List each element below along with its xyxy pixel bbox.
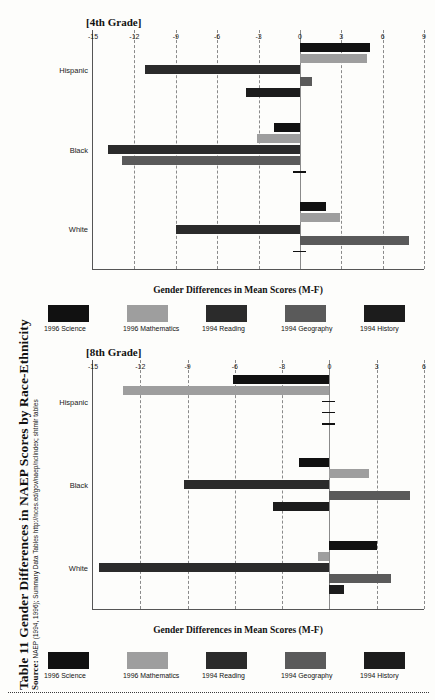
legend-item[interactable]: 1996 Science: [44, 305, 116, 332]
bar: [299, 458, 329, 467]
legend-grade4: 1996 Science1996 Mathematics1994 Reading…: [44, 305, 432, 332]
gridline: [341, 30, 342, 269]
bar: [274, 123, 300, 132]
bar: [246, 88, 300, 97]
legend-label: 1994 Geography: [281, 672, 353, 679]
y-axis-label-hispanic: Hispanic: [59, 397, 88, 406]
legend-swatch-icon: [48, 305, 89, 322]
bar: [300, 202, 326, 211]
x-axis-tick: -3: [279, 363, 285, 370]
bar: [123, 386, 329, 395]
bar: [293, 171, 306, 173]
legend-item[interactable]: 1994 Geography: [281, 652, 353, 679]
legend-label: 1996 Mathematics: [123, 325, 195, 332]
footer-divider: [8, 692, 429, 693]
legend-item[interactable]: 1994 History: [360, 652, 432, 679]
legend-label: 1994 Reading: [202, 325, 274, 332]
x-axis-title-grade8: Gender Differences in Mean Scores (M-F): [44, 625, 432, 635]
legend-label: 1994 Reading: [202, 672, 274, 679]
bar: [273, 502, 330, 511]
legend-item[interactable]: 1996 Mathematics: [123, 305, 195, 332]
bar: [329, 491, 409, 500]
legend-label: 1994 History: [360, 325, 432, 332]
chart-panel-grade8: [8th Grade] -15-12-9-6-3036HispanicBlack…: [44, 344, 432, 684]
bar: [99, 563, 329, 572]
bar: [300, 236, 409, 245]
bar: [329, 574, 390, 583]
chart-title-grade4: [4th Grade]: [86, 14, 432, 30]
gridline: [377, 360, 378, 609]
x-axis-tick: -6: [214, 33, 220, 40]
legend-item[interactable]: 1994 Reading: [202, 652, 274, 679]
gridline: [424, 30, 425, 269]
x-axis-tick: -6: [232, 363, 238, 370]
x-axis-tick: 3: [375, 363, 379, 370]
legend-label: 1994 History: [360, 672, 432, 679]
gridline: [300, 30, 301, 269]
legend-item[interactable]: 1994 Geography: [281, 305, 353, 332]
x-axis-tick: -15: [88, 33, 98, 40]
x-axis-tick: -9: [184, 363, 190, 370]
x-axis-tick: -15: [88, 363, 98, 370]
legend-label: 1994 Geography: [281, 325, 353, 332]
y-axis-label-white: White: [69, 225, 88, 234]
bar: [329, 585, 343, 594]
x-axis-tick: -12: [135, 363, 145, 370]
x-axis-tick: -9: [173, 33, 179, 40]
bar: [329, 541, 376, 550]
chart-panel-grade4: [4th Grade] -15-12-9-6-30369HispanicBlac…: [44, 14, 432, 344]
source-label: Source:: [30, 660, 40, 690]
legend-label: 1996 Mathematics: [123, 672, 195, 679]
legend-swatch-icon: [127, 305, 168, 322]
gridline: [329, 360, 330, 609]
legend-swatch-icon: [285, 305, 326, 322]
x-axis-tick: 9: [422, 33, 426, 40]
plot-area-grade8: -15-12-9-6-3036HispanicBlackWhite: [92, 360, 424, 610]
x-axis-tick: 0: [327, 363, 331, 370]
y-axis-label-white: White: [69, 563, 88, 572]
bar: [322, 412, 335, 414]
legend-item[interactable]: 1994 Reading: [202, 305, 274, 332]
bar: [145, 65, 299, 74]
bar: [322, 401, 335, 403]
caption-block: Table 11 Gender Differences in NAEP Scor…: [0, 0, 40, 700]
bar: [176, 225, 300, 234]
x-axis-tick: 6: [422, 363, 426, 370]
bar: [300, 43, 370, 52]
x-axis-tick: -12: [129, 33, 139, 40]
legend-swatch-icon: [285, 652, 326, 669]
legend-item[interactable]: 1994 History: [360, 305, 432, 332]
bar: [300, 213, 340, 222]
bar: [322, 423, 335, 425]
y-axis-label-hispanic: Hispanic: [59, 65, 88, 74]
legend-label: 1996 Science: [44, 325, 116, 332]
x-axis-tick: 6: [381, 33, 385, 40]
bar: [293, 251, 306, 253]
legend-swatch-icon: [127, 652, 168, 669]
bar: [108, 145, 300, 154]
legend-swatch-icon: [364, 652, 405, 669]
y-axis-label-black: Black: [70, 145, 88, 154]
x-axis-tick: 3: [339, 33, 343, 40]
bar: [300, 54, 368, 63]
legend-item[interactable]: 1996 Mathematics: [123, 652, 195, 679]
source-line: Source: NAEP (1994, 1996); Summary Data …: [30, 399, 40, 690]
legend-swatch-icon: [206, 652, 247, 669]
bar: [318, 552, 329, 561]
bar: [300, 77, 312, 86]
bar: [184, 480, 329, 489]
plot-area-grade4: -15-12-9-6-30369HispanicBlackWhite: [92, 30, 424, 270]
legend-swatch-icon: [364, 305, 405, 322]
x-axis-tick: -3: [255, 33, 261, 40]
legend-swatch-icon: [206, 305, 247, 322]
legend-grade8: 1996 Science1996 Mathematics1994 Reading…: [44, 652, 432, 679]
x-axis-tick: 0: [298, 33, 302, 40]
bar: [329, 469, 368, 478]
x-axis-title-grade4: Gender Differences in Mean Scores (M-F): [44, 285, 432, 295]
legend-item[interactable]: 1996 Science: [44, 652, 116, 679]
bar: [257, 134, 300, 143]
bar: [233, 375, 329, 384]
gridline: [424, 360, 425, 609]
y-axis-label-black: Black: [70, 480, 88, 489]
chart-title-grade8: [8th Grade]: [86, 344, 432, 360]
